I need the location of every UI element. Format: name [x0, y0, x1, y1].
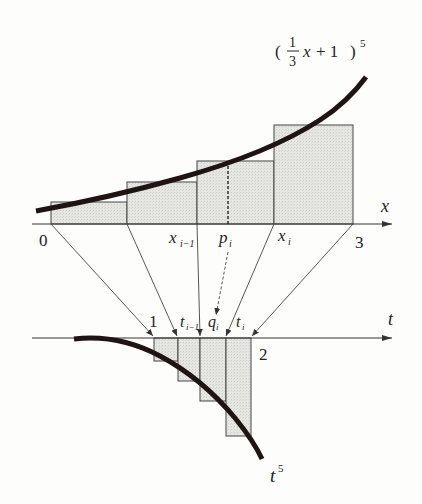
riemann-substitution-diagram: ( 1 3 x + 1 ) 5 x 0 x i−1 p i x i 3	[0, 0, 422, 504]
tick-label-2: 2	[259, 345, 268, 364]
svg-text:i−1: i−1	[186, 322, 199, 332]
svg-text:x: x	[277, 226, 286, 245]
lower-graph: t 1 t i−1 q i t i 2 t 5	[32, 309, 394, 486]
svg-text:p: p	[218, 228, 228, 247]
svg-text:5: 5	[278, 462, 284, 474]
tick-label-x-i: x i	[277, 226, 291, 247]
lower-function-label: t 5	[270, 462, 284, 486]
upper-function-label: ( 1 3 x + 1 ) 5	[275, 35, 366, 69]
svg-text:i: i	[229, 238, 232, 249]
svg-text:): )	[350, 42, 356, 61]
map-arrow-x-prev	[197, 224, 200, 336]
svg-text:(: (	[275, 42, 281, 61]
svg-text:x: x	[302, 42, 311, 61]
tick-label-0: 0	[39, 231, 48, 250]
svg-text:t: t	[236, 313, 241, 330]
svg-text:+ 1: + 1	[316, 42, 338, 61]
t-axis-label: t	[388, 309, 394, 329]
svg-text:i−1: i−1	[180, 238, 195, 249]
tick-label-p: p i	[218, 228, 232, 249]
upper-graph: ( 1 3 x + 1 ) 5 x 0 x i−1 p i x i 3	[32, 35, 392, 252]
tick-label-t-i: t i	[236, 313, 245, 332]
svg-text:5: 5	[360, 37, 366, 49]
map-arrow-p-to-q	[216, 252, 228, 315]
tick-label-q: q i	[208, 313, 219, 332]
tick-label-1: 1	[149, 312, 158, 331]
svg-text:x: x	[168, 228, 177, 247]
mapping-arrows	[51, 224, 353, 336]
svg-text:t: t	[180, 313, 185, 330]
map-arrow-0-to-1	[51, 224, 153, 336]
svg-text:q: q	[208, 313, 216, 331]
tick-label-x-prev: x i−1	[168, 228, 195, 249]
tick-label-3: 3	[355, 233, 364, 252]
svg-text:i: i	[242, 322, 245, 332]
svg-text:3: 3	[289, 54, 296, 69]
svg-text:i: i	[216, 322, 219, 332]
x-axis-label: x	[380, 196, 389, 216]
svg-text:i: i	[288, 236, 291, 247]
svg-text:t: t	[270, 465, 276, 486]
tick-label-t-prev: t i−1	[180, 313, 199, 332]
svg-text:1: 1	[289, 35, 296, 50]
